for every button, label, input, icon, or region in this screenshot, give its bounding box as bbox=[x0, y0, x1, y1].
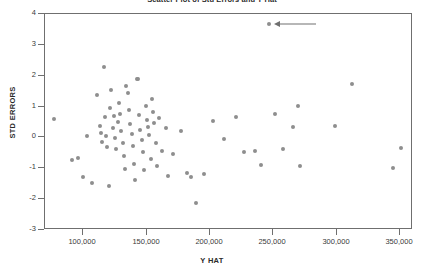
data-point bbox=[107, 184, 111, 188]
data-point bbox=[234, 115, 238, 119]
data-point bbox=[152, 121, 156, 125]
data-point bbox=[136, 77, 140, 81]
data-point bbox=[160, 149, 164, 153]
chart-title: Scatter Plot of Std Errors and Y Hat bbox=[0, 0, 424, 4]
data-point bbox=[211, 119, 215, 123]
x-axis-tick-label: 250,000 bbox=[242, 238, 302, 246]
data-point bbox=[141, 150, 145, 154]
x-axis-tick bbox=[146, 229, 147, 235]
data-point bbox=[267, 22, 271, 26]
data-point bbox=[281, 147, 285, 151]
data-point bbox=[242, 150, 246, 154]
data-point bbox=[391, 166, 395, 170]
x-axis-tick bbox=[272, 229, 273, 235]
x-axis-tick bbox=[209, 229, 210, 235]
y-axis-tick bbox=[38, 106, 44, 107]
data-point bbox=[155, 164, 159, 168]
data-point bbox=[128, 122, 132, 126]
data-point bbox=[90, 181, 94, 185]
x-axis-tick bbox=[82, 229, 83, 235]
y-axis-tick-label: -2 bbox=[10, 194, 36, 202]
data-point bbox=[117, 101, 121, 105]
y-axis-tick bbox=[38, 13, 44, 14]
data-point bbox=[350, 82, 354, 86]
y-axis-tick bbox=[38, 167, 44, 168]
data-point bbox=[296, 104, 300, 108]
data-point bbox=[142, 168, 146, 172]
data-point bbox=[189, 175, 193, 179]
data-point bbox=[70, 158, 74, 162]
x-axis-title: Y HAT bbox=[0, 256, 424, 265]
data-point bbox=[112, 114, 116, 118]
data-point bbox=[124, 84, 128, 88]
data-point bbox=[202, 172, 206, 176]
data-point bbox=[108, 106, 112, 110]
data-point bbox=[102, 65, 106, 69]
x-axis-tick bbox=[336, 229, 337, 235]
y-axis-tick bbox=[38, 198, 44, 199]
y-axis-tick-label-wrap: -2 bbox=[6, 198, 36, 199]
data-point bbox=[118, 112, 122, 116]
y-axis-tick bbox=[38, 75, 44, 76]
data-point bbox=[100, 140, 104, 144]
data-point bbox=[179, 129, 183, 133]
data-point bbox=[123, 167, 127, 171]
data-point bbox=[133, 178, 137, 182]
data-point bbox=[151, 110, 155, 114]
data-point bbox=[52, 117, 56, 121]
data-point bbox=[157, 116, 161, 120]
data-point bbox=[171, 152, 175, 156]
data-point bbox=[127, 108, 131, 112]
y-axis-tick-label-wrap: 3 bbox=[6, 44, 36, 45]
data-point bbox=[76, 156, 80, 160]
data-point bbox=[99, 131, 103, 135]
data-point bbox=[104, 134, 108, 138]
y-axis-tick bbox=[38, 136, 44, 137]
data-point bbox=[273, 112, 277, 116]
y-axis-tick bbox=[38, 229, 44, 230]
data-point bbox=[145, 118, 149, 122]
data-point bbox=[109, 88, 113, 92]
data-point bbox=[298, 164, 302, 168]
data-point bbox=[149, 157, 153, 161]
data-point bbox=[119, 129, 123, 133]
data-point bbox=[144, 104, 148, 108]
data-point bbox=[166, 174, 170, 178]
data-point bbox=[253, 149, 257, 153]
y-axis-tick-label: -1 bbox=[10, 163, 36, 171]
x-axis-tick-label: 300,000 bbox=[306, 238, 366, 246]
x-axis-tick-label: 200,000 bbox=[179, 238, 239, 246]
data-point bbox=[111, 126, 115, 130]
data-point bbox=[137, 113, 141, 117]
data-point bbox=[132, 162, 136, 166]
data-point bbox=[147, 133, 151, 137]
x-axis-tick bbox=[399, 229, 400, 235]
data-point bbox=[103, 115, 107, 119]
data-point bbox=[146, 125, 150, 129]
data-point bbox=[130, 132, 134, 136]
data-point bbox=[113, 136, 117, 140]
y-axis-tick-label: 4 bbox=[10, 9, 36, 17]
data-point bbox=[105, 145, 109, 149]
data-point bbox=[85, 134, 89, 138]
y-axis-tick bbox=[38, 44, 44, 45]
y-axis-tick-label-wrap: -1 bbox=[6, 167, 36, 168]
data-point bbox=[131, 144, 135, 148]
data-point bbox=[222, 137, 226, 141]
x-axis-tick-label: 150,000 bbox=[116, 238, 176, 246]
data-point bbox=[95, 93, 99, 97]
data-point bbox=[114, 147, 118, 151]
data-point bbox=[126, 91, 130, 95]
data-point bbox=[194, 201, 198, 205]
data-point bbox=[121, 141, 125, 145]
data-point bbox=[154, 141, 158, 145]
data-point bbox=[98, 124, 102, 128]
data-point bbox=[259, 163, 263, 167]
y-axis-tick-label: 3 bbox=[10, 40, 36, 48]
data-point bbox=[399, 146, 403, 150]
scatter-plot-figure: Scatter Plot of Std Errors and Y Hat 432… bbox=[0, 0, 424, 278]
y-axis-tick-label-wrap: -3 bbox=[6, 229, 36, 230]
y-axis-title: STD ERRORS bbox=[8, 77, 17, 149]
data-point bbox=[138, 128, 142, 132]
data-point bbox=[150, 97, 154, 101]
